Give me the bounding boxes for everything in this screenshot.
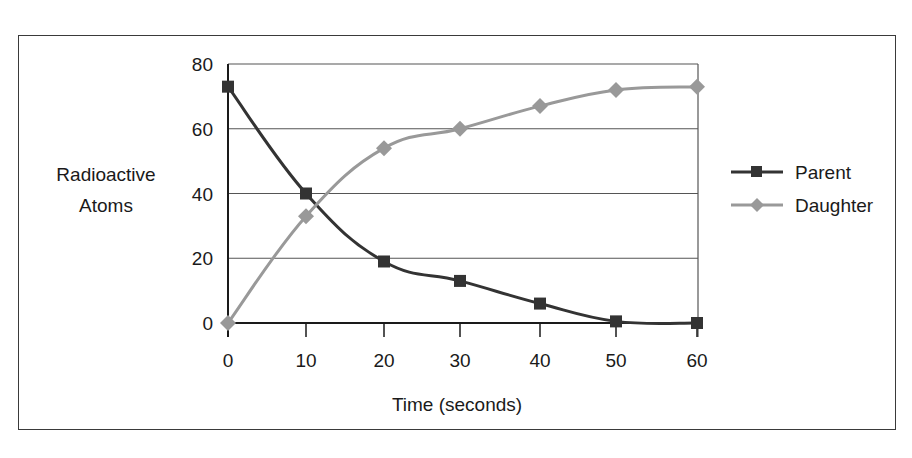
square-marker-icon [751,166,762,177]
square-marker-icon [454,275,466,287]
square-marker-icon [610,315,622,327]
x-tick-label: 30 [449,350,470,371]
legend-label-daughter: Daughter [795,195,874,216]
square-marker-icon [691,317,703,329]
y-tick-label: 0 [202,313,213,334]
diamond-marker-icon [689,79,705,95]
y-axis-ticks: 020406080 [192,54,213,334]
x-axis-title: Time (seconds) [392,394,522,415]
data-series [220,79,705,331]
series-line [228,87,697,323]
series-daughter [220,79,705,331]
legend-label-parent: Parent [795,162,852,183]
square-marker-icon [222,81,234,93]
x-tick-label: 50 [605,350,626,371]
x-tick-label: 60 [686,350,707,371]
x-tick-label: 0 [223,350,234,371]
y-tick-label: 20 [192,248,213,269]
y-tick-label: 60 [192,119,213,140]
diamond-marker-icon [452,121,468,137]
diamond-marker-icon [376,140,392,156]
legend: Parent Daughter [731,162,874,216]
gridlines [228,64,698,258]
y-axis-title-line1: Radioactive [56,164,155,185]
square-marker-icon [534,298,546,310]
series-line [228,87,697,324]
legend-item-parent: Parent [731,162,852,183]
x-tick-label: 10 [295,350,316,371]
square-marker-icon [300,188,312,200]
legend-item-daughter: Daughter [731,195,874,216]
x-tick-label: 40 [529,350,550,371]
diamond-marker-icon [532,98,548,114]
x-axis-ticks: 0102030405060 [223,323,708,371]
diamond-marker-icon [608,82,624,98]
axes [228,64,698,337]
series-parent [222,81,703,329]
line-chart: 020406080 0102030405060 Radioactive Atom… [0,0,912,458]
y-tick-label: 40 [192,184,213,205]
y-tick-label: 80 [192,54,213,75]
diamond-marker-icon [750,198,764,212]
y-axis-title-line2: Atoms [79,195,133,216]
square-marker-icon [378,255,390,267]
x-tick-label: 20 [373,350,394,371]
